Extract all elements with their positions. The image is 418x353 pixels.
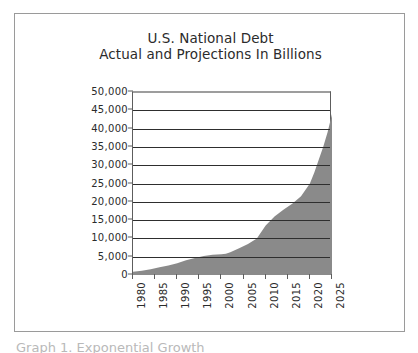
y-axis-tick-label: 5,000	[72, 250, 128, 261]
gridline-20000	[133, 202, 330, 203]
y-axis-tick-label: 25,000	[72, 177, 128, 188]
gridline-50000	[133, 92, 330, 93]
y-axis-labels: 50,00045,00040,00035,00030,00025,00020,0…	[70, 91, 128, 274]
gridline-30000	[133, 165, 330, 166]
x-axis-tickmark	[287, 274, 288, 279]
x-axis-tickmark	[132, 274, 133, 279]
x-axis-tickmark	[154, 274, 155, 279]
chart-title: U.S. National Debt Actual and Projection…	[15, 30, 406, 62]
y-axis-tick-label: 35,000	[72, 140, 128, 151]
document-page-frame: U.S. National Debt Actual and Projection…	[14, 13, 405, 332]
y-axis-tick-label: 30,000	[72, 159, 128, 170]
x-axis-tick-label: 2015	[291, 282, 302, 309]
x-axis-tickmark	[243, 274, 244, 279]
gridline-25000	[133, 184, 330, 185]
x-axis-tickmark	[331, 274, 332, 279]
x-axis-tickmark	[198, 274, 199, 279]
gridline-35000	[133, 147, 330, 148]
x-axis-tick-label: 2020	[313, 282, 324, 309]
gridline-5000	[133, 257, 330, 258]
x-axis-tick-label: 2010	[269, 282, 280, 309]
gridline-40000	[133, 129, 330, 130]
cut-off-caption: Graph 1. Exponential Growth	[16, 341, 316, 353]
x-axis-tick-label: 2000	[224, 282, 235, 309]
x-axis-tick-label: 2025	[335, 282, 346, 309]
x-axis-tick-label: 1995	[202, 282, 213, 309]
y-axis-tick-label: 20,000	[72, 195, 128, 206]
x-axis-tick-label: 1990	[180, 282, 191, 309]
chart-figure: U.S. National Debt Actual and Projection…	[15, 14, 406, 333]
chart-subtitle-line-2: Actual and Projections In Billions	[15, 46, 406, 62]
plot-wrapper	[132, 91, 331, 274]
plot-area	[132, 91, 331, 274]
x-axis-tickmark	[309, 274, 310, 279]
gridline-10000	[133, 238, 330, 239]
x-axis-tick-label: 1985	[158, 282, 169, 309]
x-axis-tickmark	[220, 274, 221, 279]
x-axis-tickmark	[265, 274, 266, 279]
y-axis-tick-label: 15,000	[72, 214, 128, 225]
x-axis-labels: 1980198519901995200020052010201520202025	[132, 274, 331, 329]
gridline-45000	[133, 110, 330, 111]
y-axis-tick-label: 50,000	[72, 86, 128, 97]
chart-title-line-1: U.S. National Debt	[15, 30, 406, 46]
x-axis-tickmark	[176, 274, 177, 279]
y-axis-tick-label: 45,000	[72, 104, 128, 115]
y-axis-tick-label: 10,000	[72, 232, 128, 243]
gridline-15000	[133, 220, 330, 221]
x-axis-tick-label: 1980	[136, 282, 147, 309]
y-axis-tick-label: 40,000	[72, 122, 128, 133]
x-axis-tick-label: 2005	[247, 282, 258, 309]
y-axis-tick-label: 0	[72, 269, 128, 280]
